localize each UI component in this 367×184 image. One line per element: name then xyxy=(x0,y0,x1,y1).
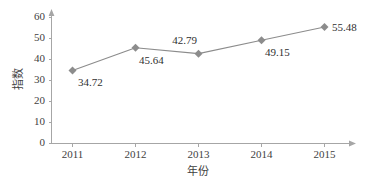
x-tick-label-2014: 2014 xyxy=(251,148,274,160)
data-point-2013 xyxy=(195,50,203,58)
data-label-2012: 45.64 xyxy=(139,54,164,66)
y-tick-label-60: 60 xyxy=(34,10,46,22)
data-point-2011 xyxy=(69,67,77,75)
x-tick-label-2013: 2013 xyxy=(188,148,211,160)
data-point-2014 xyxy=(258,36,266,44)
y-axis-tick-labels: 0 10 20 30 40 50 60 xyxy=(34,10,46,148)
y-axis-arrow-icon xyxy=(49,9,55,16)
data-label-2015: 55.48 xyxy=(332,21,357,33)
data-label-2011: 34.72 xyxy=(78,76,103,88)
data-label-2014: 49.15 xyxy=(265,46,290,58)
x-tick-label-2012: 2012 xyxy=(125,148,147,160)
data-label-2013: 42.79 xyxy=(172,34,197,46)
y-axis-title: 指数 xyxy=(11,68,24,90)
x-tick-label-2015: 2015 xyxy=(314,148,337,160)
data-point-labels: 34.72 45.64 42.79 49.15 55.48 xyxy=(78,21,357,88)
data-point-2015 xyxy=(321,23,329,31)
x-axis-title: 年份 xyxy=(187,164,209,177)
x-tick-label-2011: 2011 xyxy=(62,148,84,160)
y-tick-label-20: 20 xyxy=(34,94,46,106)
y-tick-label-10: 10 xyxy=(34,115,46,127)
y-tick-label-30: 30 xyxy=(34,73,46,85)
chart-canvas: 0 10 20 30 40 50 60 2011 2012 2013 2014 … xyxy=(0,0,367,184)
line-chart: 0 10 20 30 40 50 60 2011 2012 2013 2014 … xyxy=(0,0,367,184)
x-axis-tick-labels: 2011 2012 2013 2014 2015 xyxy=(62,148,336,160)
data-point-2012 xyxy=(132,44,140,52)
y-tick-label-0: 0 xyxy=(40,136,46,148)
y-tick-label-50: 50 xyxy=(34,31,46,43)
x-axis-arrow-icon xyxy=(349,141,356,147)
x-axis-ticks xyxy=(73,144,325,148)
y-tick-label-40: 40 xyxy=(34,52,46,64)
